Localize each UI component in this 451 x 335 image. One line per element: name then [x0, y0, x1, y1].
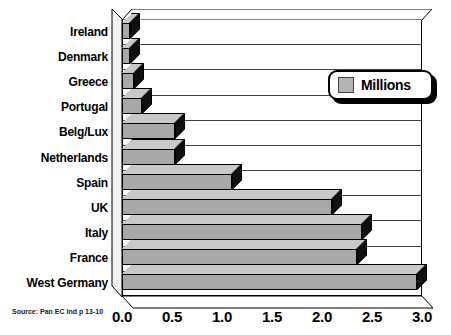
- bar-chart: IrelandDenmarkGreecePortugalBelg/LuxNeth…: [0, 0, 451, 335]
- bar-front-face: [122, 174, 232, 190]
- bar-portugal: [122, 88, 154, 114]
- legend-label: Millions: [361, 77, 411, 93]
- bar-series-millions: [0, 0, 451, 335]
- x-tick-label-1-5: 1.5: [247, 308, 297, 325]
- bar-top-face: [122, 264, 427, 274]
- bar-front-face: [122, 224, 362, 240]
- bar-uk: [122, 189, 344, 215]
- bar-top-face: [122, 239, 367, 249]
- bar-italy: [122, 214, 374, 240]
- x-tick-label-0-0: 0.0: [97, 308, 147, 325]
- bar-front-face: [122, 149, 175, 165]
- bar-top-face: [122, 164, 242, 174]
- bar-spain: [122, 164, 244, 190]
- bar-front-face: [122, 123, 175, 139]
- legend-swatch-icon: [338, 77, 354, 93]
- bar-front-face: [122, 249, 357, 265]
- bar-france: [122, 239, 369, 265]
- source-note: Source: Pan EC Ind p 13-10: [12, 308, 103, 315]
- bar-west-germany: [122, 264, 429, 290]
- bar-front-face: [122, 73, 134, 89]
- x-tick-label-1-0: 1.0: [197, 308, 247, 325]
- bar-netherlands: [122, 139, 187, 165]
- bar-front-face: [122, 274, 417, 290]
- bar-ireland: [122, 13, 142, 39]
- bar-top-face: [122, 214, 372, 224]
- bar-front-face: [122, 98, 142, 114]
- bar-front-face: [122, 23, 130, 39]
- legend-box: Millions: [328, 70, 433, 100]
- x-tick-label-3-0: 3.0: [397, 308, 447, 325]
- chart-legend[interactable]: Millions: [328, 70, 433, 100]
- bar-greece: [122, 63, 146, 89]
- bar-front-face: [122, 199, 332, 215]
- bar-front-face: [122, 48, 130, 64]
- x-tick-label-0-5: 0.5: [147, 308, 197, 325]
- bar-top-face: [122, 189, 342, 199]
- x-tick-label-2-0: 2.0: [297, 308, 347, 325]
- bar-belg-lux: [122, 113, 187, 139]
- x-tick-label-2-5: 2.5: [347, 308, 397, 325]
- bar-denmark: [122, 38, 142, 64]
